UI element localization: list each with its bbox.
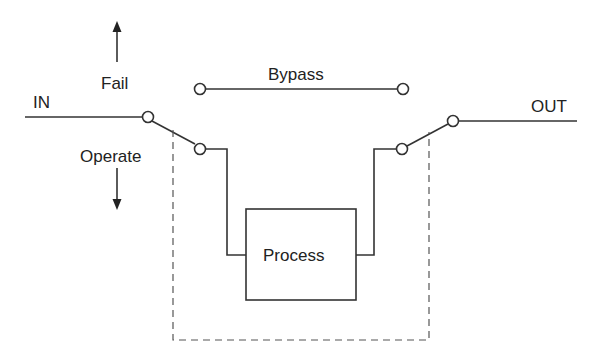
input-bypass-terminal: [195, 84, 206, 95]
output-process-terminal: [397, 144, 408, 155]
input-process-terminal: [195, 144, 206, 155]
output-label: OUT: [531, 97, 567, 116]
output-switch-blade: [407, 124, 448, 146]
process-label: Process: [263, 246, 324, 265]
fail-label: Fail: [101, 74, 128, 93]
operate-arrow-icon: [113, 168, 122, 210]
bypass-label: Bypass: [268, 65, 324, 84]
input-common-terminal: [143, 112, 154, 123]
input-label: IN: [33, 93, 50, 112]
output-bypass-terminal: [398, 84, 409, 95]
output-common-terminal: [448, 116, 459, 127]
bypass-diagram: Fail Operate IN OUT Bypass Process: [0, 0, 595, 358]
process-output-wire: [356, 149, 396, 255]
process-input-wire: [205, 149, 246, 255]
fail-arrow-icon: [113, 21, 122, 62]
operate-label: Operate: [80, 147, 141, 166]
